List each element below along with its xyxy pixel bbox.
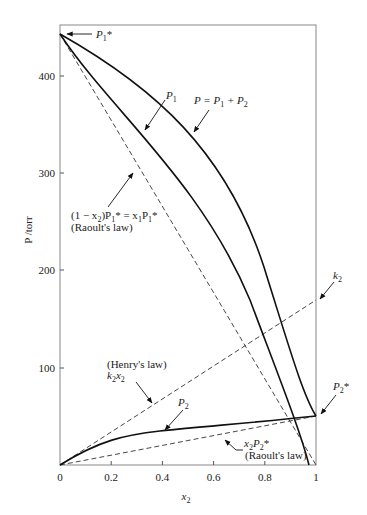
x-tick-0.8: 0.8	[258, 471, 272, 483]
raoult-line-component1	[60, 34, 316, 465]
p2star-arrow	[321, 395, 336, 414]
x-tick-0: 0	[57, 471, 63, 483]
x-axis-label: x2	[181, 490, 191, 505]
k2-label: k2	[333, 269, 342, 284]
x-tick-0.4: 0.4	[156, 471, 170, 483]
p2-arrow	[165, 410, 183, 430]
k2-arrow	[320, 282, 334, 299]
p2-label: P2	[177, 396, 189, 411]
x-tick-0.6: 0.6	[207, 471, 221, 483]
raoult2-arrow	[225, 440, 243, 450]
y-tick-400: 400	[39, 70, 56, 82]
y-tick-200: 200	[39, 264, 56, 276]
x-tick-0.2: 0.2	[104, 471, 118, 483]
p1-label: P1	[165, 89, 177, 104]
y-tick-300: 300	[39, 167, 56, 179]
x-tick-1: 1	[313, 471, 319, 483]
total-label: P = P1 + P2	[193, 94, 248, 109]
plot-frame	[60, 25, 316, 465]
total-arrow	[194, 110, 209, 132]
raoult2-law-label: (Raoult's law)	[245, 449, 307, 462]
henry-expr-label: k2x2	[107, 369, 125, 384]
x-axis	[111, 461, 265, 465]
p1star-label: P1*	[95, 28, 112, 43]
henry-arrow	[136, 382, 152, 403]
vapor-pressure-chart: 100 200 300 400 0 0.2 0.4 0.6 0.8 1 x2 P…	[0, 0, 367, 515]
y-axis-label: P /torr	[22, 216, 34, 244]
p1-arrow	[145, 100, 165, 130]
raoult1-arrow	[108, 173, 133, 207]
raoult1-law-label: (Raoult's law)	[71, 221, 133, 234]
y-tick-100: 100	[39, 362, 56, 374]
p2star-label: P2*	[332, 380, 349, 395]
y-axis	[60, 76, 64, 368]
